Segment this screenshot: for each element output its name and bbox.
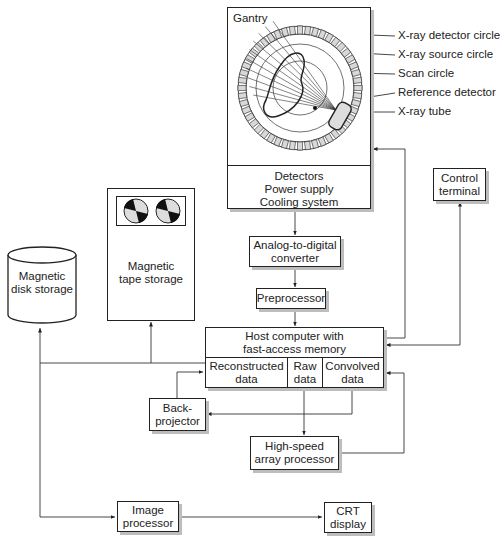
host-line1: Host computer with — [245, 330, 343, 343]
tape-reel-icon — [117, 197, 185, 225]
tape-line2: tape storage — [119, 273, 183, 286]
control-terminal-box: Control terminal — [433, 168, 486, 201]
reconstructed-data-cell: Reconstructed data — [206, 358, 288, 387]
adc-line1: Analog-to-digital — [253, 239, 336, 252]
preprocessor-label: Preprocessor — [257, 292, 325, 305]
gantry-box: Gantry Detectors Power supply Cooling sy… — [227, 7, 371, 209]
control-terminal-line1: Control — [441, 172, 478, 185]
image-processor-line2: processor — [123, 517, 174, 530]
adc-line2: converter — [271, 252, 319, 265]
callout-source-circle: X-ray source circle — [398, 48, 493, 61]
disk-storage-label: Magnetic disk storage — [6, 270, 78, 296]
array-processor-box: High-speed array processor — [250, 436, 339, 470]
crt-display-box: CRT display — [324, 502, 372, 533]
host-line2: fast-access memory — [243, 343, 346, 356]
adc-box: Analog-to-digital converter — [249, 236, 341, 267]
disk-line2: disk storage — [11, 283, 73, 296]
backprojector-line2: projector — [155, 415, 200, 428]
callout-detector-circle: X-ray detector circle — [398, 29, 500, 42]
cooling-system-label: Cooling system — [260, 196, 339, 209]
tape-storage-box: Magnetic tape storage — [107, 188, 195, 321]
disk-line1: Magnetic — [19, 270, 66, 283]
array-processor-line1: High-speed — [265, 440, 324, 453]
raw-line2: data — [294, 373, 316, 386]
raw-line1: Raw — [293, 360, 316, 373]
image-processor-line1: Image — [132, 504, 164, 517]
backprojector-box: Back- projector — [149, 398, 206, 431]
callout-scan-circle: Scan circle — [398, 67, 454, 80]
host-computer-box: Host computer with fast-access memory Re… — [205, 327, 384, 388]
gantry-subsystems: Detectors Power supply Cooling system — [228, 170, 370, 209]
convolved-line2: data — [341, 373, 363, 386]
convolved-line1: Convolved — [325, 360, 379, 373]
power-supply-label: Power supply — [264, 183, 333, 196]
callout-xray-tube: X-ray tube — [398, 105, 451, 118]
callout-reference-detector: Reference detector — [398, 86, 496, 99]
convolved-data-cell: Convolved data — [323, 358, 382, 387]
backprojector-line1: Back- — [163, 402, 192, 415]
control-terminal-line2: terminal — [439, 185, 480, 198]
reconstructed-line2: data — [235, 373, 257, 386]
tape-reels-frame — [116, 196, 186, 226]
preprocessor-box: Preprocessor — [256, 288, 326, 309]
array-processor-line2: array processor — [255, 453, 335, 466]
detectors-label: Detectors — [274, 170, 323, 183]
raw-data-cell: Raw data — [288, 358, 323, 387]
tape-line1: Magnetic — [128, 260, 175, 273]
crt-line2: display — [330, 518, 366, 531]
ct-scanner-diagram — [228, 8, 369, 166]
crt-line1: CRT — [336, 505, 359, 518]
reconstructed-line1: Reconstructed — [209, 360, 283, 373]
image-processor-box: Image processor — [117, 501, 179, 532]
